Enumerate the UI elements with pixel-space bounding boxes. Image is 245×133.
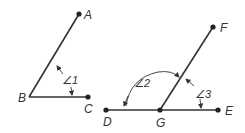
point-f [210, 24, 215, 29]
angle-3-label: ∠3 [195, 88, 212, 100]
angle-3-arrow-up [186, 79, 194, 86]
angles-diagram: ∠1 B C A ∠2 ∠3 D G E F [0, 0, 245, 133]
label-b: B [18, 91, 26, 105]
angle-3-arrow-down [200, 99, 201, 108]
figure-angle-1: ∠1 B C A [18, 8, 93, 116]
label-f: F [220, 21, 228, 35]
angle-2-label: ∠2 [134, 77, 150, 89]
label-c: C [84, 102, 93, 116]
point-e [215, 107, 220, 112]
angle-1-arrow-up [57, 66, 63, 74]
label-d: D [103, 115, 112, 129]
figure-angles-2-3: ∠2 ∠3 D G E F [103, 21, 234, 130]
point-c [85, 94, 90, 99]
label-e: E [225, 104, 234, 118]
point-d [103, 107, 108, 112]
angle-1-label: ∠1 [62, 74, 78, 86]
angle-1-arrow-down [71, 87, 72, 95]
label-a: A [83, 8, 92, 22]
point-g [157, 107, 162, 112]
point-a [76, 11, 81, 16]
label-g: G [156, 116, 165, 130]
